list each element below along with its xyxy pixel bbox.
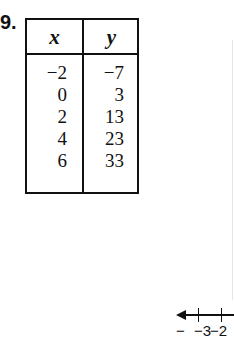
tick-dash: − xyxy=(176,322,185,340)
table-cell-x: 2 xyxy=(27,106,67,128)
table-cell-x: −2 xyxy=(27,62,67,84)
tick-label: −3 xyxy=(194,322,211,340)
graph-y-axis xyxy=(232,40,233,300)
header-x: x xyxy=(27,24,82,50)
x-values-column: −2 0 2 4 6 xyxy=(27,62,67,172)
graph-x-axis xyxy=(180,314,234,316)
table-cell-y: 13 xyxy=(84,106,124,128)
header-y: y xyxy=(84,24,139,50)
table-cell-y: 23 xyxy=(84,128,124,150)
tick-label: −2 xyxy=(210,322,227,340)
y-values-column: −7 3 13 23 33 xyxy=(84,62,124,172)
table-cell-x: 6 xyxy=(27,150,67,172)
tick-mark xyxy=(221,308,222,322)
problem-number: 9. xyxy=(0,12,17,32)
header-divider xyxy=(27,53,137,55)
table-cell-x: 0 xyxy=(27,84,67,106)
xy-table: x y −2 0 2 4 6 −7 3 13 23 33 xyxy=(25,18,139,194)
table-cell-y: 33 xyxy=(84,150,124,172)
table-cell-y: 3 xyxy=(84,84,124,106)
table-cell-x: 4 xyxy=(27,128,67,150)
table-cell-y: −7 xyxy=(84,62,124,84)
tick-mark xyxy=(198,308,199,322)
